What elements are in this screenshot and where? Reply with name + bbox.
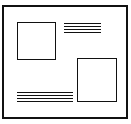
image-placeholder-bottom-right [77,58,117,102]
text-line [17,98,73,99]
text-line [17,95,73,96]
text-line [64,29,101,30]
text-line [64,32,101,33]
text-line [17,101,73,102]
text-line [64,26,101,27]
text-line [17,92,73,93]
image-placeholder-top-left [17,22,56,60]
text-placeholder-bottom-left [17,92,73,103]
text-line [64,23,101,24]
text-placeholder-top-right [64,23,101,34]
